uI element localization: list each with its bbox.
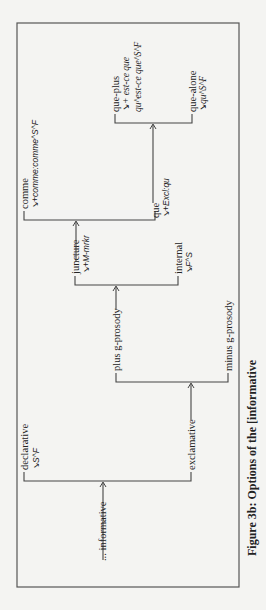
que-plus-realization-2: qu^est-ce que^S^F bbox=[133, 41, 143, 112]
figure-caption: Figure 3b: Options of the [informative bbox=[245, 359, 259, 556]
option-que-plus: que-plus bbox=[110, 76, 121, 112]
juncture-realization: ↘+M-mrkr bbox=[81, 234, 91, 274]
que-bracket bbox=[115, 114, 192, 123]
juncture-system: comme ↘+comme:comme^S^F que ↘+Excl:qu bbox=[19, 119, 171, 262]
internal-realization: ↘F^S bbox=[184, 252, 194, 274]
option-declarative: declarative bbox=[19, 424, 30, 470]
prosody-system: juncture ↘+M-mrkr internal ↘F^S bbox=[70, 234, 194, 310]
que-alone-realization: ↘qu^S^F bbox=[198, 76, 208, 112]
comme-realization: ↘+comme:comme^S^F bbox=[30, 119, 40, 209]
declarative-realization: ↘S^F bbox=[31, 447, 41, 470]
que-system: que-plus ↘+ est-ce que qu^est-ce que^S^F… bbox=[110, 41, 208, 203]
entry-label: ... informative bbox=[97, 501, 108, 561]
option-exclamative: exclamative bbox=[186, 419, 197, 470]
que-plus-realization-1: ↘+ est-ce que bbox=[121, 57, 131, 112]
option-minus-g-prosody: minus g-prosody bbox=[223, 299, 234, 371]
que-realization: ↘+Excl:qu bbox=[161, 178, 171, 218]
option-comme: comme bbox=[19, 178, 30, 209]
option-que: que bbox=[150, 203, 161, 219]
prosody-bracket bbox=[75, 276, 178, 285]
option-que-alone: que-alone bbox=[187, 70, 198, 112]
system-network-diagram: ... informative declarative ↘S^F exclama… bbox=[0, 0, 266, 610]
informative-system: ... informative declarative ↘S^F exclama… bbox=[19, 419, 197, 561]
informative-bracket bbox=[24, 472, 191, 481]
option-plus-g-prosody: plus g-prosody bbox=[111, 308, 122, 371]
exclamative-system: plus g-prosody minus g-prosody bbox=[111, 299, 234, 420]
juncture-bracket bbox=[24, 211, 155, 220]
exclamative-bracket bbox=[116, 373, 228, 382]
option-internal: internal bbox=[173, 242, 184, 274]
